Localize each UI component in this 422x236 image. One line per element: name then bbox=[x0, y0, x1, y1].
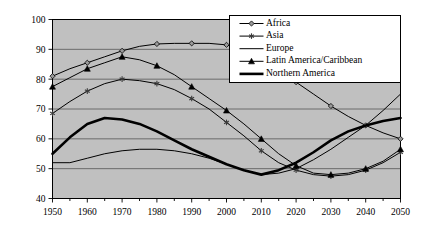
x-axis-tick-label: 1960 bbox=[78, 207, 97, 217]
x-axis-labels: 1950196019701980199020002010202020302040… bbox=[43, 207, 410, 217]
y-axis-tick-label: 100 bbox=[31, 15, 46, 25]
legend-label: Latin America/Caribbean bbox=[266, 55, 363, 65]
x-axis-tick-label: 1990 bbox=[182, 207, 201, 217]
x-axis-tick-label: 1970 bbox=[113, 207, 132, 217]
x-axis-tick-label: 2050 bbox=[391, 207, 410, 217]
y-axis-tick-label: 60 bbox=[36, 134, 46, 144]
x-axis-tick-label: 2040 bbox=[356, 207, 375, 217]
x-axis-tick-label: 1950 bbox=[43, 207, 62, 217]
y-axis-tick-label: 40 bbox=[36, 194, 46, 204]
y-axis-tick-label: 80 bbox=[36, 75, 46, 85]
x-axis-tick-label: 2030 bbox=[321, 207, 340, 217]
x-axis-tick-label: 2000 bbox=[217, 207, 236, 217]
legend-label: Northern America bbox=[266, 68, 336, 78]
x-axis-tick-label: 2020 bbox=[287, 207, 306, 217]
legend-label: Africa bbox=[266, 18, 291, 28]
legend-label: Europe bbox=[266, 43, 293, 53]
chart-legend: AfricaAsiaEuropeLatin America/CaribbeanN… bbox=[230, 16, 401, 83]
y-axis-tick-label: 70 bbox=[36, 104, 46, 114]
x-axis-tick-label: 2010 bbox=[252, 207, 271, 217]
x-axis-tick-label: 1980 bbox=[147, 207, 166, 217]
y-axis-labels: 405060708090100 bbox=[31, 15, 46, 204]
legend-label: Asia bbox=[266, 30, 284, 40]
y-axis-tick-label: 90 bbox=[36, 45, 46, 55]
y-axis-tick-label: 50 bbox=[36, 164, 46, 174]
chart-canvas: 405060708090100 195019601970198019902000… bbox=[0, 0, 422, 236]
line-chart: 405060708090100 195019601970198019902000… bbox=[0, 0, 422, 236]
